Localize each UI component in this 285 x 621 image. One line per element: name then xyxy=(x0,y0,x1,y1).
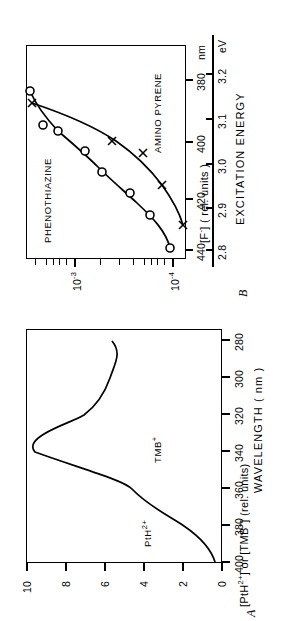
panel-a-series-label-pth: PtH2+ xyxy=(140,520,153,547)
panel-a-curve-tmb xyxy=(33,341,216,563)
panel-a-pth-text: PtH xyxy=(142,529,153,547)
panel-a: A 0 2 4 6 8 10 [PtH2+] or [TMB+] (rel. u… xyxy=(0,303,285,621)
panel-b-series-label-phenothiazine: PHENOTHIAZINE xyxy=(42,158,53,243)
panel-a-tmb-text: TMB xyxy=(152,441,163,463)
panel-a-pth-sup: 2+ xyxy=(140,520,149,530)
panel-b-plot-svg xyxy=(0,0,285,303)
panel-b-series-label-aminopyrene: AMINO PYRENE xyxy=(152,73,163,153)
figure-stage: A 0 2 4 6 8 10 [PtH2+] or [TMB+] (rel. u… xyxy=(0,0,285,621)
panel-a-tmb-sup: + xyxy=(150,436,159,441)
panel-b: B 10-4 10-3 [F-] ( rel. units ) 440 xyxy=(0,0,285,303)
panel-a-series-label-tmb: TMB+ xyxy=(150,436,163,463)
panel-a-plot-svg xyxy=(0,303,285,621)
